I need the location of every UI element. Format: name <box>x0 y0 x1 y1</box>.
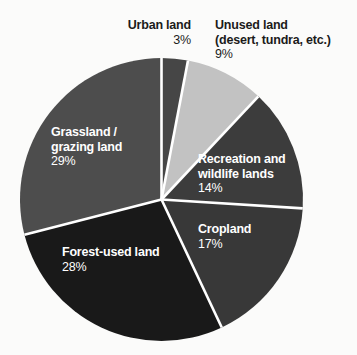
pie-label-grassland-percent: 29% <box>51 154 122 169</box>
pie-label-unused-land: Unused land (desert, tundra, etc.) 9% <box>215 18 331 62</box>
pie-label-recreation-text-line2: wildlife lands <box>198 167 286 182</box>
pie-label-cropland-percent: 17% <box>198 237 251 252</box>
pie-label-forest-used-land: Forest-used land 28% <box>62 245 160 274</box>
pie-label-unused-land-text-line1: Unused land <box>215 18 331 33</box>
pie-label-cropland-text: Cropland <box>198 222 251 237</box>
pie-label-recreation-text-line1: Recreation and <box>198 152 286 167</box>
pie-label-urban-land-percent: 3% <box>103 33 191 48</box>
pie-label-forest-used-land-text: Forest-used land <box>62 245 160 260</box>
pie-label-recreation-and-wildlife-lands: Recreation and wildlife lands 14% <box>198 152 286 196</box>
pie-label-urban-land: Urban land 3% <box>103 18 191 47</box>
pie-label-recreation-percent: 14% <box>198 181 286 196</box>
pie-label-forest-used-land-percent: 28% <box>62 260 160 275</box>
pie-label-grassland-text-line2: grazing land <box>51 140 122 155</box>
pie-label-cropland: Cropland 17% <box>198 222 251 251</box>
pie-label-unused-land-percent: 9% <box>215 47 331 62</box>
pie-label-unused-land-text-line2: (desert, tundra, etc.) <box>215 33 331 48</box>
pie-label-grassland-text-line1: Grassland / <box>51 125 122 140</box>
pie-label-grassland-grazing-land: Grassland / grazing land 29% <box>51 125 122 169</box>
pie-chart: Urban land 3% Unused land (desert, tundr… <box>0 0 357 355</box>
pie-label-urban-land-text: Urban land <box>103 18 191 33</box>
